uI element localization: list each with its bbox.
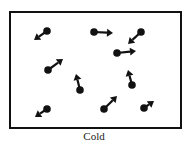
molecule-ball-icon — [113, 49, 121, 57]
molecule-ball-icon — [137, 28, 145, 36]
molecule-ball-icon — [43, 105, 51, 113]
molecule-ball-icon — [128, 81, 136, 89]
molecule-5 — [44, 59, 63, 74]
molecule-ball-icon — [43, 27, 51, 35]
molecule-9 — [100, 96, 117, 113]
molecule-7 — [126, 70, 136, 89]
molecule-6 — [74, 74, 84, 94]
arrowhead-icon — [130, 48, 136, 56]
molecule-ball-icon — [100, 105, 108, 113]
molecule-10 — [140, 101, 154, 112]
gas-molecules-diagram — [0, 0, 188, 151]
molecule-3 — [128, 28, 145, 44]
molecule-1 — [34, 27, 51, 40]
molecule-8 — [35, 105, 51, 117]
molecules-group — [34, 27, 154, 117]
molecule-ball-icon — [44, 66, 52, 74]
molecule-ball-icon — [76, 86, 84, 94]
molecule-4 — [113, 48, 136, 57]
molecule-2 — [90, 28, 113, 36]
caption-label: Cold — [0, 130, 188, 142]
arrowhead-icon — [74, 74, 82, 81]
arrowhead-icon — [107, 29, 113, 37]
molecule-ball-icon — [140, 104, 148, 112]
molecule-ball-icon — [90, 28, 98, 36]
